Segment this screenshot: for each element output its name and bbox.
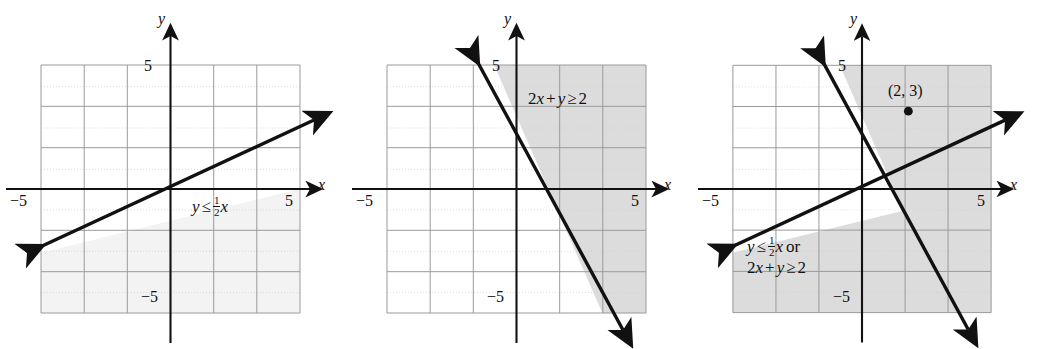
label-geq: ≥ — [784, 258, 797, 277]
fraction-numerator: 1 — [213, 195, 221, 206]
label-rhs-2: 2 — [798, 258, 807, 277]
label-var-x: x — [775, 237, 783, 256]
x-tick-negative-5: −5 — [356, 192, 373, 210]
inequality-label-3-line-1: y≤12xor — [747, 236, 800, 259]
y-tick-negative-5: −5 — [487, 288, 504, 306]
x-tick-negative-5: −5 — [10, 192, 27, 210]
x-tick-positive-5: 5 — [285, 192, 293, 210]
inequality-label-1: y≤12x — [192, 196, 228, 219]
fraction-one-half: 12 — [768, 235, 776, 258]
label-var-y: y — [192, 197, 200, 216]
y-tick-negative-5: −5 — [141, 288, 158, 306]
y-tick-positive-5: 5 — [492, 57, 500, 75]
label-leq: ≤ — [755, 237, 768, 256]
y-axis-label: y — [158, 10, 165, 28]
inequality-label-3-line-2: 2x+y≥2 — [747, 258, 806, 277]
label-or: or — [783, 237, 800, 256]
graph-panel-2: x y 5 −5 −5 5 2x+y≥2 — [346, 0, 692, 349]
fraction-denominator: 2 — [213, 206, 221, 218]
label-leq: ≤ — [200, 197, 213, 216]
x-tick-negative-5: −5 — [702, 192, 719, 210]
y-axis-label: y — [504, 10, 511, 28]
figure-row: x y 5 −5 −5 5 y≤12x — [0, 0, 1039, 349]
x-tick-positive-5: 5 — [631, 192, 639, 210]
label-var-x: x — [220, 197, 228, 216]
x-axis-label: x — [318, 176, 325, 194]
label-plus: + — [544, 89, 558, 108]
label-coefficient-2: 2 — [528, 89, 537, 108]
fraction-denominator: 2 — [768, 246, 776, 258]
y-tick-positive-5: 5 — [838, 57, 846, 75]
label-plus: + — [763, 258, 777, 277]
x-axis-label: x — [1010, 176, 1017, 194]
y-tick-negative-5: −5 — [833, 288, 850, 306]
label-geq: ≥ — [565, 89, 578, 108]
inequality-label-2: 2x+y≥2 — [528, 89, 587, 108]
label-var-x: x — [537, 89, 545, 108]
fraction-numerator: 1 — [768, 235, 776, 246]
y-tick-positive-5: 5 — [144, 57, 152, 75]
y-axis-label: y — [850, 10, 857, 28]
point-coordinate-label: (2, 3) — [888, 82, 923, 100]
graph-panel-3: x y 5 −5 −5 5 (2, 3) y≤12xor 2x+y≥2 — [692, 0, 1038, 349]
label-var-x: x — [756, 258, 764, 277]
graph-panel-1: x y 5 −5 −5 5 y≤12x — [0, 0, 346, 349]
x-tick-positive-5: 5 — [977, 192, 985, 210]
label-rhs-2: 2 — [579, 89, 588, 108]
label-coefficient-2: 2 — [747, 258, 756, 277]
solution-point-dot — [904, 107, 913, 116]
x-axis-label: x — [664, 176, 671, 194]
fraction-one-half: 12 — [213, 195, 221, 218]
label-var-y: y — [747, 237, 755, 256]
